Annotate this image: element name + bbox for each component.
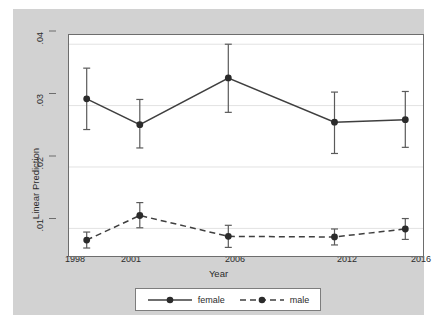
legend-entry-female[interactable]: female bbox=[147, 294, 225, 306]
data-point-female bbox=[331, 119, 338, 126]
y-tick-label-04: .04 bbox=[35, 32, 45, 62]
y-tick-label-01: .01 bbox=[35, 219, 45, 249]
x-axis-title: Year bbox=[13, 268, 424, 279]
legend-entry-male[interactable]: male bbox=[239, 294, 310, 306]
plot-canvas bbox=[69, 35, 423, 256]
data-series bbox=[83, 44, 409, 248]
plot-area bbox=[68, 34, 424, 257]
series-female bbox=[83, 44, 409, 153]
data-point-female bbox=[402, 116, 409, 123]
legend-marker-male-icon bbox=[239, 294, 285, 306]
data-point-male bbox=[331, 234, 338, 241]
legend-marker-female-icon bbox=[147, 294, 193, 306]
series-male bbox=[83, 203, 409, 248]
data-point-female bbox=[136, 121, 143, 128]
data-point-female bbox=[225, 75, 232, 82]
data-point-male bbox=[83, 237, 90, 244]
legend: female male bbox=[135, 288, 321, 311]
series-line-female bbox=[87, 78, 406, 125]
gridlines bbox=[69, 44, 423, 228]
y-tick-label-03: .03 bbox=[35, 94, 45, 124]
graph-region: Linear Prediction .04 .03 .02 .01 1998 2… bbox=[13, 9, 424, 315]
data-point-male bbox=[225, 233, 232, 240]
data-point-male bbox=[402, 226, 409, 233]
legend-label-female: female bbox=[198, 295, 225, 305]
y-axis-ticks bbox=[49, 19, 57, 249]
y-tick-label-02: .02 bbox=[35, 157, 45, 187]
data-point-male bbox=[136, 212, 143, 219]
series-line-male bbox=[87, 215, 406, 240]
data-point-female bbox=[83, 95, 90, 102]
legend-label-male: male bbox=[290, 295, 310, 305]
